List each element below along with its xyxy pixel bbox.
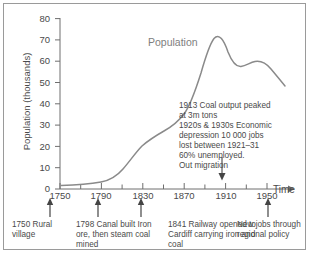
y-tick-label-30: 30	[28, 119, 50, 130]
y-tick-label-80: 80	[28, 13, 50, 24]
y-tick-label-10: 10	[28, 162, 50, 173]
annotation-line-7: Out migration	[179, 161, 305, 171]
caption-1798-canal-built: 1798 Canal built Iron ore, then steam co…	[76, 220, 164, 251]
x-tick-label-1750: 1750	[43, 190, 77, 201]
annotation-line-2: at 3m tons	[179, 111, 305, 121]
x-tick-label-1870: 1870	[167, 190, 201, 201]
annotation-line-4: depression 10 000 jobs	[179, 131, 305, 141]
y-axis-ticks	[55, 19, 60, 189]
x-tick-label-1830: 1830	[126, 190, 160, 201]
y-tick-label-70: 70	[28, 34, 50, 45]
x-axis-minor-ticks	[81, 185, 247, 190]
y-tick-label-20: 20	[28, 141, 50, 152]
annotation-line-5: lost between 1921–31	[179, 141, 305, 151]
y-tick-label-50: 50	[28, 77, 50, 88]
annotation-text-block: 1913 Coal output peaked at 3m tons 1920s…	[179, 101, 305, 171]
x-axis-title: Time	[273, 184, 295, 195]
caption-1750-rural-village: 1750 Rural village	[12, 220, 70, 240]
annotation-line-3: 1920s & 1930s Economic	[179, 121, 305, 131]
x-tick-label-1910: 1910	[209, 190, 243, 201]
population-timeline-chart: Population (thousands) 80 70 60 50 40 30…	[0, 0, 310, 254]
series-label-population: Population	[148, 36, 198, 48]
annotation-line-6: 60% unemployed.	[179, 151, 305, 161]
y-tick-label-60: 60	[28, 55, 50, 66]
annotation-line-1: 1913 Coal output peaked	[179, 101, 305, 111]
caption-new-jobs-regional-policy: New jobs through regional policy	[237, 220, 309, 240]
x-tick-label-1790: 1790	[84, 190, 118, 201]
y-tick-label-40: 40	[28, 98, 50, 109]
